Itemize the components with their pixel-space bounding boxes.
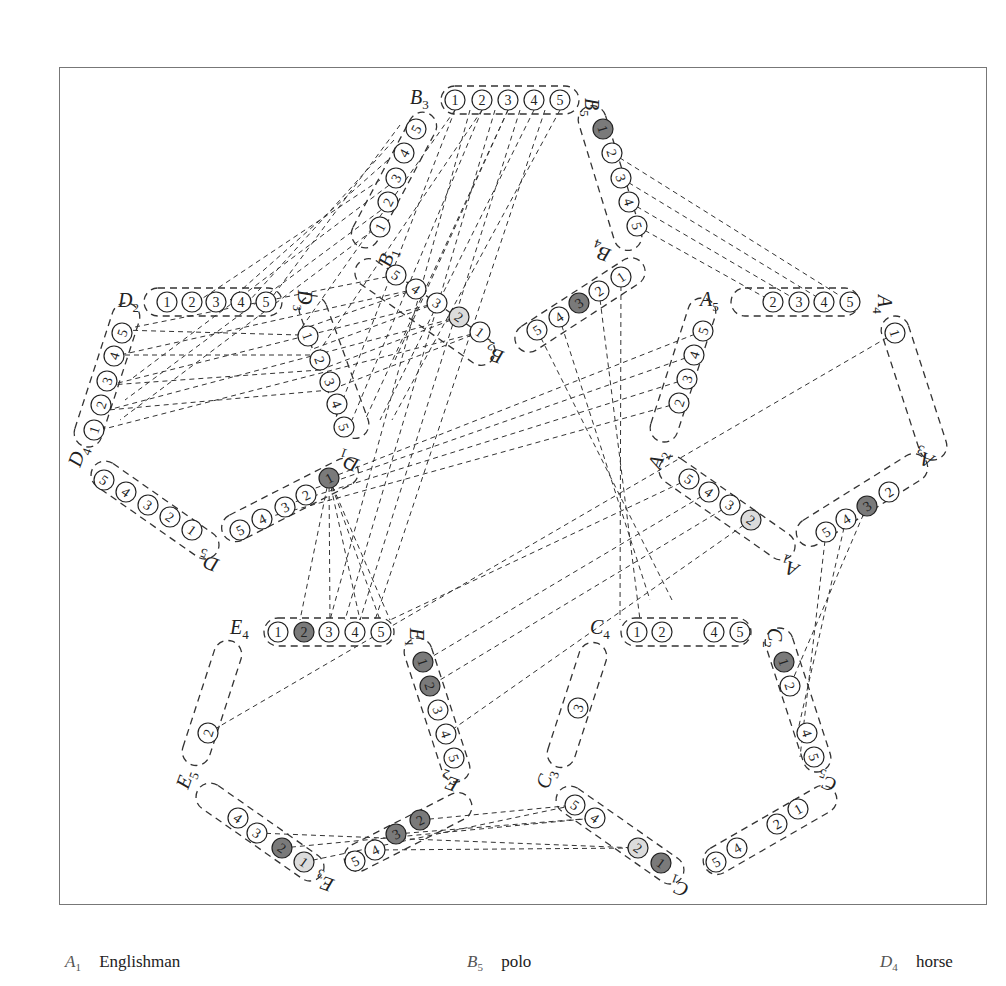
domain-value: 5 xyxy=(840,292,860,312)
value-number: 3 xyxy=(796,295,803,310)
domain-value: 3 xyxy=(206,292,226,312)
domain-value: 3 xyxy=(789,292,809,312)
group-label: A3 xyxy=(911,442,939,474)
domain-value: 3 xyxy=(386,824,406,844)
domain-value: 2 xyxy=(602,143,622,163)
domain-value: 3 xyxy=(428,700,448,720)
domain-value: 3 xyxy=(498,90,518,110)
legend-symbol: A1 xyxy=(65,952,81,971)
domain-value: 5 xyxy=(406,119,426,139)
group-label: D2 xyxy=(117,289,139,315)
constraint-edge xyxy=(110,370,320,385)
variable-group-b2: 54321B2 xyxy=(349,253,507,371)
value-number: 1 xyxy=(634,625,641,640)
value-number: 2 xyxy=(301,625,308,640)
group-label: B4 xyxy=(588,236,615,267)
constraint-edge xyxy=(270,125,400,300)
domain-value: 2 xyxy=(589,281,609,301)
value-number: 4 xyxy=(352,625,359,640)
domain-value: 1 xyxy=(885,323,905,343)
group-label: C2 xyxy=(760,628,786,648)
variable-group-d5: 54321D5 xyxy=(86,456,225,578)
variable-group-e3: 4321E3 xyxy=(191,778,339,898)
variable-group-c5: 5421C5 xyxy=(698,766,842,880)
domain-value: 4 xyxy=(797,723,817,743)
constraint-edge xyxy=(262,403,679,519)
domain-value: 5 xyxy=(550,90,570,110)
domain-value: 4 xyxy=(365,840,385,860)
group-label: E3 xyxy=(311,866,338,897)
value-number: 2 xyxy=(479,93,486,108)
constraint-edge xyxy=(329,478,360,620)
value-number: 1 xyxy=(164,295,171,310)
domain-value: 2 xyxy=(449,307,469,327)
domain-value: 2 xyxy=(310,350,330,370)
group-label: C3 xyxy=(531,765,562,793)
value-number: 5 xyxy=(557,93,564,108)
domain-value: 1 xyxy=(84,420,104,440)
domain-value: 1 xyxy=(611,267,631,287)
value-number: 4 xyxy=(821,295,828,310)
variable-group-e4: 12345E4 xyxy=(229,616,394,646)
domain-value: 2 xyxy=(410,810,430,830)
domain-value: 3 xyxy=(568,698,588,718)
domain-value: 1 xyxy=(593,119,613,139)
domain-value: 3 xyxy=(386,168,406,188)
domain-value: 5 xyxy=(679,469,699,489)
variable-group-d2: 12345D2 xyxy=(117,288,282,316)
domain-value: 1 xyxy=(298,326,318,346)
domain-value: 3 xyxy=(611,168,631,188)
domain-value: 4 xyxy=(836,509,856,529)
variable-group-b3: 12345B3 xyxy=(410,86,579,114)
value-number: 3 xyxy=(505,93,512,108)
domain-value: 4 xyxy=(394,143,414,163)
constraint-edge xyxy=(420,805,575,820)
group-label: C4 xyxy=(590,616,610,642)
domain-value: 5 xyxy=(816,522,836,542)
domain-value: 1 xyxy=(157,292,177,312)
group-label: B3 xyxy=(410,86,429,112)
domain-value: 3 xyxy=(720,495,740,515)
group-label: E5 xyxy=(171,766,202,793)
value-number: 4 xyxy=(531,93,538,108)
domain-value: 1 xyxy=(627,622,647,642)
domain-value: 5 xyxy=(627,216,647,236)
domain-value: 4 xyxy=(619,192,639,212)
domain-value: 4 xyxy=(252,509,272,529)
group-label: A1 xyxy=(776,551,804,583)
domain-value: 2 xyxy=(198,723,218,743)
domain-value: 5 xyxy=(444,748,464,768)
variable-group-a1: 5432A1 xyxy=(653,451,804,583)
constraint-edge xyxy=(130,180,396,380)
group-label: A2 xyxy=(642,446,674,474)
group-label: B2 xyxy=(481,338,507,369)
domain-value: 4 xyxy=(436,724,456,744)
constraint-edge xyxy=(430,505,730,686)
constraint-edge xyxy=(599,291,640,620)
legend-item: A1 Englishman xyxy=(65,952,180,973)
domain-value: 1 xyxy=(182,520,202,540)
domain-value: 1 xyxy=(294,852,314,872)
variable-group-d1: 54321D1 xyxy=(217,445,364,546)
value-number: 5 xyxy=(737,625,744,640)
value-number: 4 xyxy=(711,625,718,640)
domain-value: 1 xyxy=(470,322,490,342)
variable-group-d4: 12345D4 xyxy=(63,299,144,471)
constraint-edge xyxy=(330,332,480,390)
variable-group-a2: 2345A2 xyxy=(642,294,719,474)
variable-group-b5: 12345B5 xyxy=(575,98,647,254)
domain-value: 5 xyxy=(386,265,406,285)
domain-value: 5 xyxy=(706,852,726,872)
constraint-edge xyxy=(257,833,638,848)
domain-value: 2 xyxy=(472,90,492,110)
group-enclosure xyxy=(295,292,373,443)
legend-meaning: polo xyxy=(501,952,531,971)
group-label: D3 xyxy=(290,289,316,311)
domain-value: 4 xyxy=(104,346,124,366)
domain-value: 5 xyxy=(565,795,585,815)
constraint-edge xyxy=(120,330,300,335)
value-number: 3 xyxy=(326,625,333,640)
constraint-edge xyxy=(108,390,330,410)
domain-value: 5 xyxy=(334,417,354,437)
variable-group-a3: 5432A3 xyxy=(791,442,940,552)
